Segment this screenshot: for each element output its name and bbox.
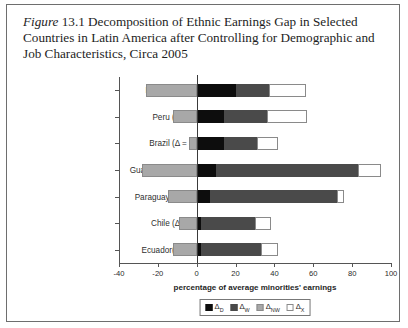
- legend-item: ΔW: [231, 302, 250, 313]
- x-axis-tick: [352, 263, 353, 267]
- legend-swatch: [257, 304, 264, 311]
- legend-item: ΔD: [206, 302, 224, 313]
- plot-area: Bolivia (Δ = 30.6%)Peru (Δ = 45.5%)Brazi…: [119, 77, 391, 263]
- legend-swatch: [287, 304, 294, 311]
- bar-segment-delta-x: [261, 243, 278, 256]
- legend-label: ΔNW: [266, 302, 280, 313]
- caption-figure-word: Figure: [23, 14, 58, 29]
- bar-segment-delta-d: [197, 137, 224, 150]
- legend-swatch: [231, 304, 238, 311]
- legend-item: ΔNW: [257, 302, 280, 313]
- legend-swatch: [206, 304, 213, 311]
- bar-row: [119, 137, 391, 150]
- bar-segment-delta-w: [224, 137, 257, 150]
- x-axis-tick-label: 80: [348, 269, 356, 278]
- bar-segment-delta-w: [201, 217, 255, 230]
- x-axis-tick: [158, 263, 159, 267]
- bar-segment-delta-nw: [179, 217, 196, 230]
- bar-segment-delta-nw: [173, 110, 196, 123]
- x-axis-tick-label: -40: [114, 269, 125, 278]
- bar-row: [119, 84, 391, 97]
- caption-figure-number: 13.1: [62, 14, 85, 29]
- figure-frame: Figure 13.1 Decomposition of Ethnic Earn…: [6, 4, 400, 322]
- bar-segment-delta-w: [210, 190, 336, 203]
- legend-label: ΔX: [296, 302, 305, 313]
- x-axis-title: percentage of average minorities' earnin…: [119, 283, 391, 292]
- bar-segment-delta-d: [197, 190, 211, 203]
- bar-row: [119, 190, 391, 203]
- legend-item: ΔX: [287, 302, 305, 313]
- bar-segment-delta-d: [197, 110, 224, 123]
- x-axis-tick-label: 40: [270, 269, 278, 278]
- x-axis-tick: [236, 263, 237, 267]
- bar-segment-delta-d: [197, 84, 236, 97]
- chart-legend: ΔDΔWΔNWΔX: [200, 299, 311, 316]
- bar-row: [119, 164, 391, 177]
- bar-segment-delta-nw: [142, 164, 196, 177]
- bar-segment-delta-nw: [146, 84, 197, 97]
- bar-segment-delta-nw: [168, 190, 197, 203]
- bar-segment-delta-x: [269, 84, 306, 97]
- bar-row: [119, 110, 391, 123]
- x-axis-tick: [119, 263, 120, 267]
- bar-segment-delta-w: [224, 110, 267, 123]
- bar-segment-delta-nw: [173, 243, 196, 256]
- bar-segment-delta-x: [255, 217, 271, 230]
- x-axis-tick-label: 20: [231, 269, 239, 278]
- x-axis-tick-label: 0: [195, 269, 199, 278]
- bar-segment-delta-x: [267, 110, 308, 123]
- bar-segment-delta-w: [216, 164, 358, 177]
- bar-segment-delta-x: [337, 190, 345, 203]
- bar-segment-delta-x: [358, 164, 381, 177]
- x-axis-tick: [274, 263, 275, 267]
- x-axis-tick-label: -20: [152, 269, 163, 278]
- bar-segment-delta-w: [201, 243, 261, 256]
- legend-label: ΔW: [240, 302, 250, 313]
- x-axis-tick-label: 100: [385, 269, 398, 278]
- x-axis-tick: [313, 263, 314, 267]
- bar-segment-delta-d: [197, 164, 216, 177]
- bar-segment-delta-x: [257, 137, 278, 150]
- bar-segment-delta-nw: [189, 137, 197, 150]
- x-axis-tick-label: 60: [309, 269, 317, 278]
- bar-segment-delta-w: [236, 84, 269, 97]
- bar-row: [119, 217, 391, 230]
- x-axis-tick: [391, 263, 392, 267]
- figure-caption: Figure 13.1 Decomposition of Ethnic Earn…: [23, 14, 375, 63]
- x-axis-line: [119, 263, 391, 264]
- x-axis-tick: [197, 263, 198, 267]
- bar-row: [119, 243, 391, 256]
- zero-reference-line: [197, 75, 198, 265]
- legend-label: ΔD: [215, 302, 224, 313]
